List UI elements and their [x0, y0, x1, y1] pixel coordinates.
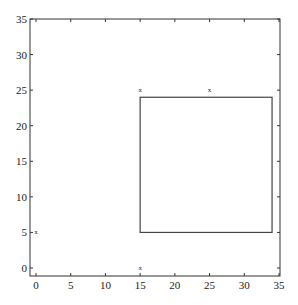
x-marker: x [138, 86, 142, 94]
x-tick-label: 20 [169, 279, 181, 291]
x-marker: x [34, 228, 38, 236]
x-marker: x [208, 86, 212, 94]
rectangle-shape [140, 97, 272, 232]
y-tick-label: 10 [16, 191, 28, 203]
plot-markers: xxxx [34, 86, 212, 272]
axes-frame [30, 19, 280, 276]
x-tick-label: 0 [33, 279, 39, 291]
x-tick-label: 30 [239, 279, 251, 291]
x-tick-label: 25 [204, 279, 216, 291]
y-tick-label: 25 [16, 84, 28, 96]
y-tick-label: 35 [16, 13, 28, 25]
y-tick-label: 30 [16, 49, 28, 61]
x-axis-ticks: 05101520253035 [33, 19, 285, 291]
y-axis-ticks: 05101520253035 [16, 13, 280, 274]
x-tick-label: 10 [100, 279, 112, 291]
x-marker: x [138, 264, 142, 272]
plot-shapes [140, 97, 272, 232]
y-tick-label: 15 [16, 155, 28, 167]
x-tick-label: 5 [68, 279, 74, 291]
y-tick-label: 20 [16, 120, 28, 132]
y-tick-label: 5 [22, 226, 28, 238]
plot-border [30, 19, 280, 276]
x-tick-label: 35 [274, 279, 286, 291]
x-tick-label: 15 [135, 279, 147, 291]
y-tick-label: 0 [22, 262, 28, 274]
chart-canvas: 05101520253035 05101520253035 xxxx [0, 0, 298, 305]
